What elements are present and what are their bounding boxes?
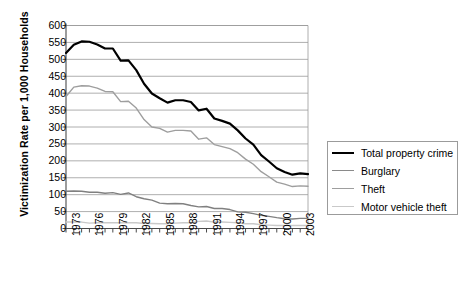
legend-swatch-theft <box>332 188 354 189</box>
y-axis-tick-label: 0 <box>36 223 66 233</box>
line-chart: Victimization Rate per 1,000 Households … <box>0 0 464 284</box>
legend-swatch-burglary <box>332 170 354 171</box>
y-axis-tick-label: 350 <box>36 105 66 115</box>
x-axis-tick-label: 1973 <box>70 212 82 235</box>
legend-label: Motor vehicle theft <box>361 201 447 213</box>
x-axis-tick-label: 1997 <box>257 212 269 235</box>
y-axis-tick-label: 100 <box>36 189 66 199</box>
y-axis-tick-label: 200 <box>36 155 66 165</box>
x-axis-tick-label: 1985 <box>164 212 176 235</box>
x-axis-tick-label: 2003 <box>304 212 316 235</box>
legend-swatch-total-property-crime <box>332 152 354 154</box>
y-axis-tick-label: 150 <box>36 172 66 182</box>
y-axis-tick-label: 400 <box>36 88 66 98</box>
legend-item-total-property-crime[interactable]: Total property crime <box>332 144 453 161</box>
y-axis-tick-label: 250 <box>36 138 66 148</box>
x-axis-tick-label: 1979 <box>117 212 129 235</box>
x-axis-tick-label: 1991 <box>211 212 223 235</box>
y-axis-tick-label: 500 <box>36 54 66 64</box>
x-axis-tick-label: 2000 <box>281 212 293 235</box>
y-axis-tick-label: 550 <box>36 37 66 47</box>
x-axis-tick-label: 1988 <box>187 212 199 235</box>
y-axis-tick-label: 50 <box>36 206 66 216</box>
y-axis-tick-labels: 050100150200250300350400450500550600 <box>34 0 66 284</box>
y-axis-title: Victimization Rate per 1,000 Households <box>18 4 30 224</box>
legend-item-theft[interactable]: Theft <box>332 180 385 197</box>
legend-swatch-motor-vehicle-theft <box>332 206 354 207</box>
x-axis-tick-label: 1994 <box>234 212 246 235</box>
chart-legend: Total property crime Burglary Theft Moto… <box>327 141 458 215</box>
legend-label: Burglary <box>361 165 400 177</box>
x-axis-tick-label: 1982 <box>140 212 152 235</box>
legend-label: Total property crime <box>361 147 453 159</box>
legend-item-motor-vehicle-theft[interactable]: Motor vehicle theft <box>332 198 447 215</box>
y-axis-tick-label: 300 <box>36 122 66 132</box>
y-axis-tick-label: 600 <box>36 20 66 30</box>
legend-item-burglary[interactable]: Burglary <box>332 162 400 179</box>
series-line-total-property-crime <box>66 41 308 174</box>
legend-label: Theft <box>361 183 385 195</box>
y-axis-tick-label: 450 <box>36 71 66 81</box>
x-axis-tick-label: 1976 <box>93 212 105 235</box>
